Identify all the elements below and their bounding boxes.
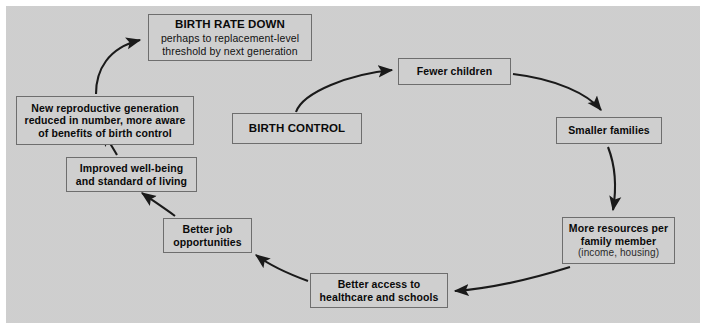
- node-healthcare-line-1: Better access to: [338, 278, 421, 290]
- node-more-resources-per-family-member[interactable]: More resources per family member (income…: [562, 217, 675, 264]
- node-improved-line-2: and standard of living: [76, 175, 187, 187]
- arrow-healthcare-to-jobs: [256, 255, 308, 281]
- node-resources-line-1: More resources per: [569, 222, 668, 234]
- node-healthcare-line-2: healthcare and schools: [320, 291, 439, 303]
- node-fewer-children-label: Fewer children: [417, 65, 493, 77]
- node-better-job-opportunities[interactable]: Better job opportunities: [163, 218, 252, 253]
- node-improved-line-1: Improved well-being: [80, 162, 183, 174]
- arrow-smaller-families-to-resources: [608, 147, 615, 210]
- node-smaller-families[interactable]: Smaller families: [556, 117, 662, 144]
- node-jobs-line-1: Better job: [182, 223, 232, 235]
- node-birth-control[interactable]: BIRTH CONTROL: [232, 113, 362, 144]
- arrow-new-generation-to-birth-rate-down: [96, 40, 140, 94]
- node-smaller-families-label: Smaller families: [568, 124, 650, 136]
- node-improved-wellbeing[interactable]: Improved well-being and standard of livi…: [66, 157, 197, 192]
- node-birth-rate-down-sub-line-1: perhaps to replacement-level: [161, 32, 299, 44]
- node-birth-rate-down-sub-line-2: threshold by next generation: [162, 45, 297, 57]
- node-new-generation-line-2: reduced in number, more aware: [24, 114, 185, 126]
- node-new-generation-line-1: New reproductive generation: [31, 102, 178, 114]
- arrow-fewer-children-to-smaller-families: [513, 74, 601, 110]
- node-birth-control-label: BIRTH CONTROL: [249, 122, 345, 136]
- node-fewer-children[interactable]: Fewer children: [398, 58, 511, 85]
- node-birth-rate-down[interactable]: BIRTH RATE DOWN perhaps to replacement-l…: [148, 14, 312, 61]
- node-better-access-healthcare-schools[interactable]: Better access to healthcare and schools: [310, 273, 448, 308]
- diagram-canvas: BIRTH RATE DOWN perhaps to replacement-l…: [0, 0, 706, 329]
- arrow-jobs-to-improved: [142, 193, 175, 216]
- node-new-reproductive-generation[interactable]: New reproductive generation reduced in n…: [16, 96, 194, 145]
- node-jobs-line-2: opportunities: [173, 236, 241, 248]
- node-new-generation-line-3: of benefits of birth control: [38, 127, 171, 139]
- node-resources-line-2: family member: [581, 235, 656, 247]
- node-birth-rate-down-title: BIRTH RATE DOWN: [175, 18, 285, 32]
- arrow-resources-to-healthcare: [455, 267, 570, 291]
- arrow-birth-control-to-fewer-children: [296, 70, 392, 112]
- node-resources-sub: (income, housing): [578, 247, 659, 259]
